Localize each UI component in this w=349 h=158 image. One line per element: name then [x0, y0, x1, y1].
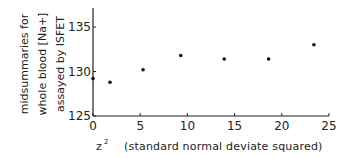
x-axis-symbol: z — [96, 140, 102, 153]
x-axis-superscript: 2 — [104, 138, 108, 146]
x-axis-description: (standard normal deviate squared) — [124, 140, 323, 153]
y-axis-label-line: whole blood [Na+] — [36, 13, 49, 116]
data-point — [91, 77, 95, 81]
x-tick-label: 0 — [89, 119, 97, 133]
data-point — [141, 68, 145, 72]
axes: 1251301350510152025 — [68, 8, 337, 133]
x-tick-label: 15 — [227, 119, 242, 133]
x-tick-label: 25 — [321, 119, 336, 133]
x-axis-label: z2(standard normal deviate squared) — [96, 138, 323, 153]
data-point — [222, 57, 226, 61]
data-point — [108, 80, 112, 84]
x-tick-label: 5 — [136, 119, 144, 133]
data-point — [267, 57, 271, 61]
scatter-chart: midsummaries forwhole blood [Na+]assayed… — [0, 0, 349, 158]
y-tick-label: 130 — [68, 65, 91, 79]
y-axis-label: midsummaries forwhole blood [Na+]assayed… — [18, 13, 67, 116]
y-axis-label-line: midsummaries for — [18, 13, 31, 114]
y-tick-label: 135 — [68, 20, 91, 34]
data-point — [312, 43, 316, 47]
x-tick-label: 10 — [180, 119, 195, 133]
x-tick-label: 20 — [274, 119, 289, 133]
data-point — [179, 54, 183, 58]
data-points — [91, 43, 315, 84]
y-axis-label-line: assayed by ISFET — [54, 16, 67, 112]
y-tick-label: 125 — [68, 109, 91, 123]
